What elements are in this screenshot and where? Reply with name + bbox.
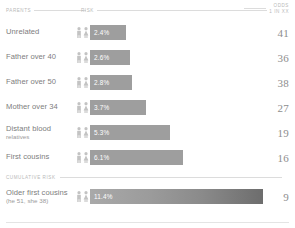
risk-bar: 3.7%	[90, 100, 146, 115]
row-label: Distant blood relatives	[6, 125, 74, 140]
cumulative-risk-rule	[60, 177, 282, 178]
parents-pair-icon	[74, 77, 90, 88]
bar-area: 2.4%	[90, 25, 263, 40]
table-row: Father over 40 2.6%	[6, 45, 289, 70]
table-row: Father over 50 2.8%	[6, 70, 289, 95]
row-label: Mother over 34	[6, 103, 74, 111]
bar-area: 2.6%	[90, 50, 263, 65]
header-odds-line2: 1 IN XX	[269, 9, 289, 14]
bar-value-label: 2.4%	[90, 29, 109, 36]
row-label: Father over 40	[6, 53, 74, 61]
risk-bar: 6.1%	[90, 150, 183, 165]
man-icon	[76, 127, 82, 138]
table-row: Unrelated 2.4%	[6, 20, 289, 45]
table-row: First cousins 6.1%	[6, 145, 289, 170]
bar-area: 3.7%	[90, 100, 263, 115]
header-risk: RISK	[81, 8, 267, 13]
bar-area: 5.3%	[90, 125, 263, 140]
header-odds: ODDS 1 IN XX	[244, 3, 289, 14]
parents-pair-icon	[74, 152, 90, 163]
risk-bar: 2.4%	[90, 25, 126, 40]
man-icon	[76, 27, 82, 38]
odds-value: 19	[263, 127, 289, 139]
row-label: Unrelated	[6, 28, 74, 36]
parents-pair-icon	[74, 127, 90, 138]
row-label-main: Mother over 34	[6, 102, 58, 111]
woman-icon	[83, 52, 89, 63]
woman-icon	[83, 102, 89, 113]
woman-icon	[83, 191, 89, 202]
bottom-divider	[6, 222, 289, 223]
header-risk-rule	[97, 10, 267, 11]
woman-icon	[83, 27, 89, 38]
row-label-main: Unrelated	[6, 27, 39, 36]
header-odds-line1: ODDS	[274, 3, 289, 8]
table-row: Distant blood relatives	[6, 120, 289, 145]
row-label-main: Father over 50	[6, 77, 56, 86]
header-odds-rule	[244, 8, 266, 9]
bar-area: 11.4%	[90, 189, 263, 204]
header-odds-label: ODDS 1 IN XX	[269, 3, 289, 14]
row-label-main: First cousins	[6, 152, 49, 161]
man-icon	[76, 52, 82, 63]
risk-bar: 5.3%	[90, 125, 170, 140]
row-label-sub: relatives	[6, 133, 74, 140]
header-parents-rule	[34, 10, 86, 11]
woman-icon	[83, 77, 89, 88]
cumulative-risk-label: CUMULATIVE RISK	[6, 175, 56, 180]
bar-area: 2.8%	[90, 75, 263, 90]
table-row-cumulative: Older first cousins (he 51, she 38) 11.4…	[6, 184, 289, 209]
odds-value: 27	[263, 102, 289, 114]
woman-icon	[83, 127, 89, 138]
bar-value-label: 3.7%	[90, 104, 109, 111]
parents-pair-icon	[74, 102, 90, 113]
risk-bar: 2.6%	[90, 50, 130, 65]
bar-value-label: 6.1%	[90, 154, 109, 161]
header-risk-label: RISK	[81, 8, 94, 13]
bar-value-label: 2.8%	[90, 79, 109, 86]
risk-bar: 2.8%	[90, 75, 132, 90]
odds-value: 41	[263, 27, 289, 39]
woman-icon	[83, 152, 89, 163]
man-icon	[76, 77, 82, 88]
man-icon	[76, 102, 82, 113]
parents-pair-icon	[74, 52, 90, 63]
row-label-main: Father over 40	[6, 52, 56, 61]
man-icon	[76, 191, 82, 202]
bar-area: 6.1%	[90, 150, 263, 165]
table-row: Mother over 34 3.7%	[6, 95, 289, 120]
row-label-sub: (he 51, she 38)	[6, 197, 74, 204]
row-label-main: Distant blood	[6, 124, 51, 133]
header-parents-label: PARENTS	[6, 8, 31, 13]
risk-bar-cumulative: 11.4%	[90, 189, 263, 204]
row-label: Older first cousins (he 51, she 38)	[6, 189, 74, 204]
risk-chart: PARENTS RISK ODDS 1 IN XX Unrelated	[0, 0, 295, 228]
parents-pair-icon	[74, 191, 90, 202]
odds-value: 38	[263, 77, 289, 89]
cumulative-risk-header: CUMULATIVE RISK	[6, 170, 289, 184]
parents-pair-icon	[74, 27, 90, 38]
row-label-main: Older first cousins	[6, 188, 68, 197]
chart-header: PARENTS RISK ODDS 1 IN XX	[6, 0, 289, 20]
bar-value-label: 2.6%	[90, 54, 109, 61]
risk-rows: Unrelated 2.4%	[6, 20, 289, 170]
header-parents: PARENTS	[6, 8, 86, 13]
man-icon	[76, 152, 82, 163]
row-label: Father over 50	[6, 78, 74, 86]
odds-value: 16	[263, 152, 289, 164]
bar-value-label: 11.4%	[90, 193, 113, 200]
odds-value: 36	[263, 52, 289, 64]
odds-value: 9	[263, 191, 289, 203]
bar-value-label: 5.3%	[90, 129, 109, 136]
row-label: First cousins	[6, 153, 74, 161]
